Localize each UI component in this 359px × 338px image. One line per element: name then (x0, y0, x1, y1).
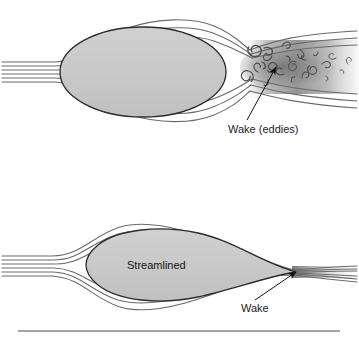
wake-label: Wake (241, 302, 269, 314)
streamlined-body-shape (86, 229, 296, 301)
streamlined-body-label: Streamlined (127, 259, 186, 271)
bluff-body-shape (60, 27, 226, 117)
wake-region-turbulent (240, 40, 359, 94)
streamlined-body-flow-diagram: Streamlined Wake (2, 224, 359, 314)
flow-diagram-canvas: Wake (eddies) (0, 0, 359, 338)
figure-root: Wake (eddies) (0, 0, 359, 338)
wake-eddies-label: Wake (eddies) (228, 123, 299, 135)
bluff-body-flow-diagram: Wake (eddies) (2, 20, 359, 135)
